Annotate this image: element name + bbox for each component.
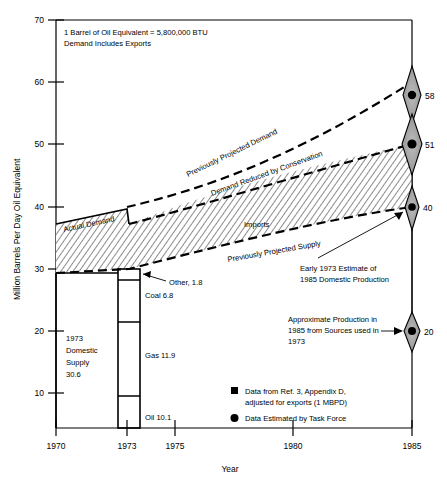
annotation-approximate-production: Approximate Production in 1985 from Sour… xyxy=(288,315,403,346)
bar-caption-line-4: 30.6 xyxy=(66,370,81,379)
legend-entry-1-line-2: adjusted for exports (1 MBPD) xyxy=(245,398,348,407)
marker-label-40: 40 xyxy=(423,203,433,213)
marker-20: 20 xyxy=(404,312,434,352)
bar-caption-line-1: 1973 xyxy=(66,334,83,343)
bar-segment-label-coal: Coal 6.8 xyxy=(145,291,173,300)
x-axis-title: Year xyxy=(221,464,238,474)
annotation-approx-line-1: Approximate Production in xyxy=(288,315,377,324)
bar-caption-line-2: Domestic xyxy=(66,346,98,355)
marker-label-51: 51 xyxy=(425,140,435,150)
legend-square-marker-icon xyxy=(231,387,238,394)
chart-canvas: 70 60 50 40 30 20 10 Million Barrels Per… xyxy=(0,0,447,488)
curve-label-previously-projected-supply: Previously Projected Supply xyxy=(227,239,322,264)
marker-58: 58 xyxy=(403,66,435,124)
x-tick-label-1973: 1973 xyxy=(118,441,137,451)
y-tick-label-30: 30 xyxy=(35,264,45,274)
bar-segment-label-gas: Gas 11.9 xyxy=(145,351,175,360)
x-tick-label-1985: 1985 xyxy=(403,441,422,451)
x-tick-label-1975: 1975 xyxy=(166,441,185,451)
annotation-approx-line-2: 1985 from Sources used in xyxy=(288,326,379,335)
bar-caption-line-3: Supply xyxy=(66,358,89,367)
y-axis-title: Million Barrels Per Day Oil Equivalent xyxy=(12,158,22,300)
legend-entry-2-line-1: Data Estimated by Task Force xyxy=(245,414,346,423)
bar-caption-1973-domestic-supply: 1973 Domestic Supply 30.6 xyxy=(66,334,98,379)
x-axis-tick-labels: 1970 1973 1975 1980 1985 xyxy=(47,441,422,451)
bar-segment-label-oil: Oil 10.1 xyxy=(145,413,171,422)
y-axis-tick-labels: 70 60 50 40 30 20 10 xyxy=(35,15,45,398)
other-arrowhead xyxy=(143,271,151,278)
x-tick-label-1980: 1980 xyxy=(284,441,303,451)
note-line-1: 1 Barrel of Oil Equivalent = 5,800,000 B… xyxy=(64,28,208,37)
bar-segment-label-other: Other, 1.8 xyxy=(169,278,202,287)
marker-label-20: 20 xyxy=(424,327,434,337)
marker-label-58: 58 xyxy=(425,91,435,101)
y-tick-label-40: 40 xyxy=(35,202,45,212)
annotation-other-callout: Other, 1.8 xyxy=(143,271,202,287)
annotation-early-1973-line-2: 1985 Domestic Production xyxy=(300,275,389,284)
chart-figure: 70 60 50 40 30 20 10 Million Barrels Per… xyxy=(0,0,447,488)
y-tick-label-70: 70 xyxy=(35,15,45,25)
approx-production-arrowhead xyxy=(394,327,403,335)
chart-legend: Data from Ref. 3, Appendix D, adjusted f… xyxy=(231,387,348,423)
legend-entry-1-line-1: Data from Ref. 3, Appendix D, xyxy=(245,387,346,396)
x-tick-label-1970: 1970 xyxy=(47,441,66,451)
note-line-2: Demand Includes Exports xyxy=(64,39,151,48)
annotation-early-1973-line-1: Early 1973 Estimate of xyxy=(300,264,377,273)
y-tick-label-50: 50 xyxy=(35,139,45,149)
curve-label-imports: Imports xyxy=(244,220,270,229)
legend-circle-marker-icon xyxy=(231,414,239,422)
y-tick-label-10: 10 xyxy=(35,388,45,398)
bar-outline xyxy=(118,269,140,428)
y-tick-label-20: 20 xyxy=(35,326,45,336)
y-tick-label-60: 60 xyxy=(35,77,45,87)
annotation-approx-line-3: 1973 xyxy=(288,337,305,346)
